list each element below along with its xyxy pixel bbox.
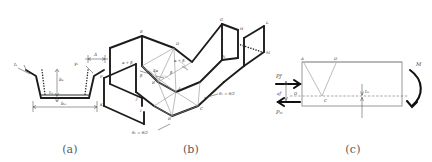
panel-b: α + β α + β 2α β β θ₁ = θ/2 θ₁ = θ/2 A B… bbox=[96, 0, 286, 162]
yield-line-fan-upper bbox=[142, 48, 192, 92]
figure-container: tₖ γₖ bₑ tₘ bbox=[0, 0, 432, 162]
label-beta-left: β bbox=[139, 73, 143, 78]
vertex-H: H bbox=[239, 26, 244, 31]
label-web-thickness-c: tₘ bbox=[365, 89, 370, 94]
panel-c: Pƒ eƒ Pₘ tₘ bbox=[274, 0, 432, 162]
vertex-c-A: A bbox=[300, 56, 304, 61]
panel-c-drawing: Pƒ eƒ Pₘ tₘ bbox=[274, 0, 432, 162]
vertex-c-O: O bbox=[294, 91, 298, 96]
panel-b-drawing: α + β α + β 2α β β θ₁ = θ/2 θ₁ = θ/2 A B… bbox=[96, 0, 286, 162]
moment-arrow bbox=[407, 70, 421, 107]
vertex-C: C bbox=[200, 106, 203, 111]
label-moment: M bbox=[415, 61, 422, 67]
fold-annotation-lower bbox=[158, 124, 170, 130]
vertex-I: I bbox=[139, 108, 142, 113]
label-bottom-width: bₘ bbox=[61, 101, 67, 106]
caption-panel-c: (c) bbox=[274, 143, 432, 156]
label-flange-angle: γₖ bbox=[74, 61, 79, 66]
vertex-L: L bbox=[265, 20, 269, 25]
vertex-center-upper: B bbox=[151, 80, 155, 85]
channel-right-segment bbox=[192, 24, 238, 62]
beam-elevation-rect bbox=[302, 62, 402, 106]
label-left-thickness: tₖ bbox=[14, 62, 18, 67]
label-flange-force: Pƒ bbox=[275, 73, 282, 79]
vertex-c-D: D bbox=[333, 56, 338, 61]
collapse-fold-lines bbox=[136, 36, 224, 116]
channel-cross-section bbox=[26, 70, 104, 98]
vertex-A: A bbox=[177, 86, 181, 91]
vertex-J: J bbox=[135, 96, 138, 101]
vertex-M: M bbox=[265, 50, 271, 55]
flange-height-dimension bbox=[55, 69, 59, 96]
label-web-thickness: tₘ bbox=[49, 90, 54, 95]
vertex-G: G bbox=[220, 17, 223, 22]
web-force-arrow bbox=[278, 98, 300, 106]
label-fold-lower: θ₁ = θ/2 bbox=[132, 130, 148, 135]
hidden-edge-dotted bbox=[238, 44, 262, 52]
label-fold-upper: θ₁ = θ/2 bbox=[219, 91, 235, 96]
vertex-F: F bbox=[99, 74, 103, 79]
vertex-c-C: C bbox=[324, 98, 327, 103]
channel-end-plate bbox=[224, 26, 264, 82]
vertex-E: E bbox=[139, 29, 143, 34]
label-flange-eccentricity: eƒ bbox=[277, 91, 283, 96]
vertex-D: D bbox=[175, 41, 180, 46]
gamma-angle-leader bbox=[86, 66, 93, 73]
label-angle-center: 2α bbox=[152, 68, 158, 73]
label-angle-left: α + β bbox=[122, 60, 133, 65]
left-corner-leader bbox=[18, 65, 30, 74]
caption-panel-b: (b) bbox=[96, 143, 286, 156]
vertex-N: N bbox=[221, 54, 226, 59]
vertex-B: B bbox=[167, 116, 171, 121]
label-angle-right: α + β bbox=[174, 58, 185, 63]
label-flange-height: bₑ bbox=[59, 77, 64, 82]
flange-force-arrow bbox=[276, 80, 300, 88]
label-web-force: Pₘ bbox=[275, 109, 283, 115]
label-beta-right: β bbox=[169, 70, 173, 75]
